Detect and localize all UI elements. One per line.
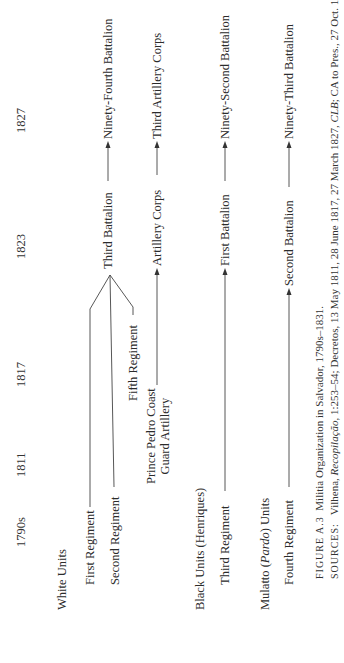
sources-text-2: , 1:253–54; Decretos, 13 May 1811, 28 Ju… (328, 122, 340, 420)
link-second-regiment-to-third-battalion (110, 275, 114, 487)
sources-text-3: ; CA to Pres., 27 Oct. 1830, (328, 0, 340, 102)
sources-label: SOURCES: (329, 523, 340, 579)
arrowhead-second-battalion (287, 288, 292, 295)
figure-caption: FIGURE A.3 Militia Organization in Salva… (312, 306, 327, 579)
arrowhead-ninety-second (223, 141, 228, 148)
arrowhead-ninety-fourth (106, 141, 111, 148)
link-first-regiment-branch (90, 275, 110, 507)
figure-title: Militia Organization in Salvador, 1790s–… (313, 306, 325, 511)
figure-sources: SOURCES: Vilhena, Recopilação, 1:253–54;… (327, 0, 342, 579)
arrowhead-first-battalion (223, 268, 228, 275)
sources-italic-2: CLB (328, 102, 340, 122)
figure-label: FIGURE A.3 (314, 516, 325, 579)
connector-lines (0, 0, 344, 663)
sources-italic-1: Recopilação (328, 420, 340, 475)
link-fifth-regiment-to-third-battalion (110, 275, 133, 315)
sources-text-1: Vilhena, (328, 475, 340, 515)
arrowhead-ninety-third (287, 141, 292, 148)
militia-organization-figure: 1790s 1811 1817 1823 1827 White Units Bl… (0, 0, 344, 663)
arrowhead-third-artillery-corps (155, 141, 160, 148)
arrowhead-artillery-corps (155, 268, 160, 275)
